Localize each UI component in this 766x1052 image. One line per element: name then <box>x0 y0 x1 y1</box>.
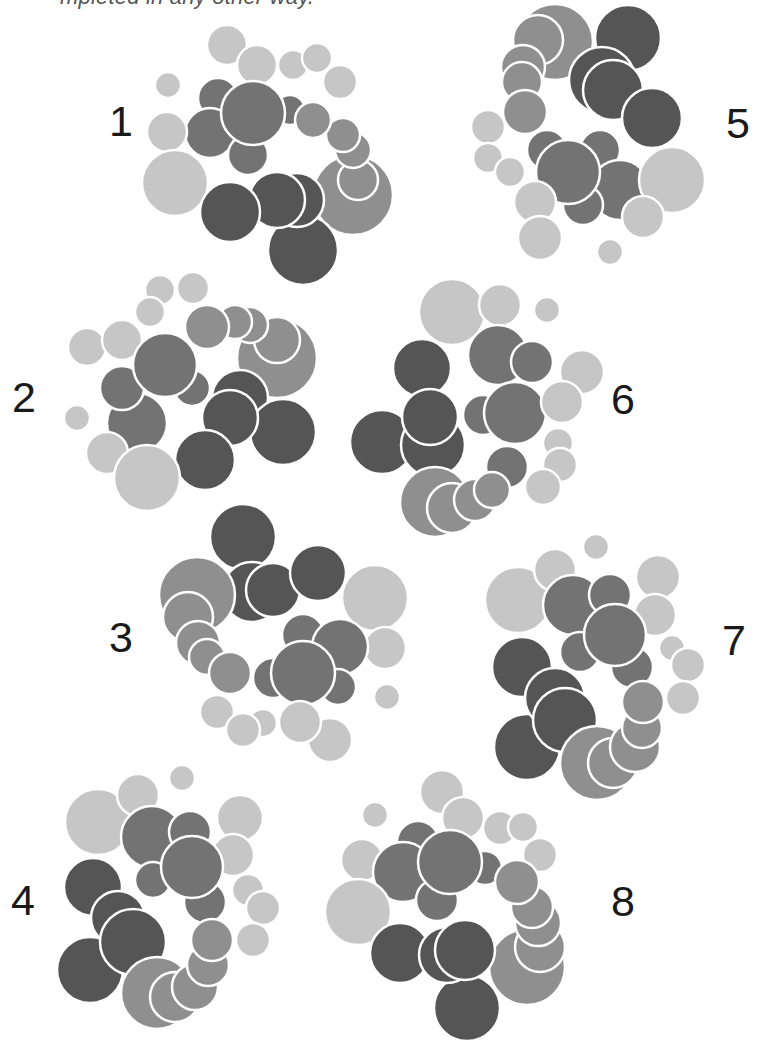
figure-label-3: 3 <box>109 616 133 659</box>
dark-circle <box>393 339 451 397</box>
medium-circle <box>503 90 547 134</box>
light-circle <box>471 110 505 144</box>
dark-circle <box>290 545 346 601</box>
light-circle <box>135 297 165 327</box>
dark-circle <box>434 975 500 1041</box>
figure-label-6: 6 <box>611 378 635 421</box>
light-circle <box>155 72 181 98</box>
light-circle <box>237 45 277 85</box>
light-circle <box>64 405 90 431</box>
figure-3 <box>159 504 408 762</box>
figure-1 <box>142 25 393 285</box>
light-circle <box>236 923 270 957</box>
dark-circle <box>622 88 682 148</box>
light-circle <box>541 381 583 423</box>
light-circle <box>323 65 357 99</box>
light-circle <box>177 272 209 304</box>
medium-circle <box>191 919 233 961</box>
medium-dark-circle <box>418 830 482 894</box>
light-circle <box>114 445 180 511</box>
medium-dark-circle <box>584 604 646 666</box>
light-circle <box>525 469 561 505</box>
medium-circle <box>209 652 251 694</box>
figure-label-2: 2 <box>12 376 36 419</box>
light-circle <box>362 802 388 828</box>
light-circle <box>495 157 525 187</box>
figure-2 <box>64 272 317 511</box>
dark-circle <box>200 182 260 242</box>
light-circle <box>671 648 705 682</box>
medium-dark-circle <box>133 333 197 397</box>
light-circle <box>226 713 260 747</box>
light-circle <box>302 43 332 73</box>
medium-dark-circle <box>271 641 335 705</box>
figure-8 <box>325 770 565 1041</box>
dark-circle <box>175 430 235 490</box>
light-circle <box>142 150 208 216</box>
medium-dark-circle <box>221 81 285 145</box>
medium-circle <box>622 681 664 723</box>
medium-dark-circle <box>511 341 553 383</box>
light-circle <box>518 216 562 260</box>
light-circle <box>246 891 280 925</box>
figure-6 <box>350 279 604 537</box>
light-circle <box>636 555 680 599</box>
figure-7 <box>485 534 705 800</box>
dark-circle <box>435 920 495 980</box>
figure-label-7: 7 <box>722 619 746 662</box>
figure-5 <box>471 4 705 265</box>
dark-circle <box>250 399 316 465</box>
light-circle <box>364 627 406 669</box>
light-circle <box>666 681 700 715</box>
figure-label-5: 5 <box>726 102 750 145</box>
light-circle <box>68 328 106 366</box>
medium-dark-circle <box>484 382 546 444</box>
light-circle <box>169 765 195 791</box>
medium-circle <box>495 860 539 904</box>
figure-4 <box>57 765 280 1029</box>
figure-label-4: 4 <box>11 879 35 922</box>
light-circle <box>147 112 187 152</box>
light-circle <box>279 701 321 743</box>
figure-label-1: 1 <box>109 100 133 143</box>
light-circle <box>534 297 560 323</box>
light-circle <box>597 239 623 265</box>
circle-clusters-figure <box>0 0 766 1052</box>
medium-dark-circle <box>161 836 223 898</box>
figure-label-8: 8 <box>611 880 635 923</box>
light-circle <box>508 812 538 842</box>
medium-circle <box>185 305 229 349</box>
light-circle <box>622 196 664 238</box>
light-circle <box>374 684 400 710</box>
medium-circle <box>295 102 331 138</box>
light-circle <box>583 534 609 560</box>
light-circle <box>479 284 521 326</box>
dark-circle <box>210 504 276 570</box>
medium-circle <box>474 472 510 508</box>
dark-circle <box>402 389 458 445</box>
